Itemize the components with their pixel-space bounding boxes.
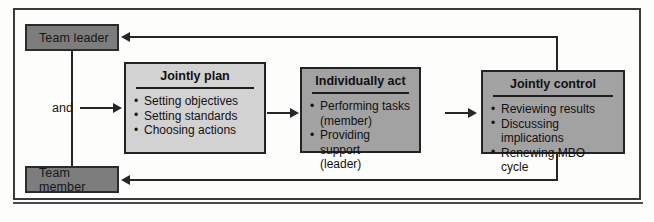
node-team-member[interactable]: Team member [25, 166, 119, 193]
node-jointly-plan[interactable]: Jointly plan Setting objectives Setting … [124, 62, 266, 154]
list-item: Setting standards [134, 109, 256, 124]
node-individually-act[interactable]: Individually act Performing tasks (membe… [300, 67, 421, 153]
connector-control-to-member-horizontal [129, 179, 558, 181]
list-item: Discussing implications [491, 117, 615, 146]
figure-bottom-rule [13, 202, 643, 204]
connector-and-label: and [52, 101, 73, 115]
node-jointly-control-title: Jointly control [491, 77, 615, 92]
arrow-control-to-member-head [121, 175, 130, 185]
figure-canvas: Team leader Team member and Jointly plan… [0, 0, 654, 222]
node-team-member-label: Team member [39, 166, 117, 194]
list-item: Renewing MBO cycle [491, 146, 615, 175]
list-item: Setting objectives [134, 94, 256, 109]
connector-act-to-control-line [445, 112, 470, 114]
arrow-plan-to-act-head [290, 108, 299, 118]
list-item-continuation: (leader) [310, 157, 411, 172]
node-team-leader[interactable]: Team leader [25, 24, 119, 51]
node-individually-act-list: Performing tasks (member) Providing supp… [310, 99, 411, 172]
node-jointly-plan-divider [136, 87, 254, 89]
connector-plan-to-act-line [267, 112, 292, 114]
list-item: Providing support [310, 128, 411, 157]
list-item: Choosing actions [134, 123, 256, 138]
node-jointly-control[interactable]: Jointly control Reviewing results Discus… [481, 70, 625, 154]
list-item: Performing tasks [310, 99, 411, 114]
node-individually-act-divider [312, 92, 409, 94]
connector-control-to-leader-horizontal [129, 36, 558, 38]
node-jointly-plan-list: Setting objectives Setting standards Cho… [134, 94, 256, 138]
node-team-leader-label: Team leader [39, 31, 109, 45]
node-jointly-plan-title: Jointly plan [134, 69, 256, 84]
list-item-continuation: (member) [310, 114, 411, 129]
arrow-act-to-control-head [468, 108, 477, 118]
list-item: Reviewing results [491, 102, 615, 117]
arrow-and-to-plan-head [113, 103, 122, 113]
arrow-control-to-leader-head [121, 32, 130, 42]
node-individually-act-title: Individually act [310, 74, 411, 89]
connector-and-to-plan-line [80, 107, 114, 109]
node-jointly-control-list: Reviewing results Discussing implication… [491, 102, 615, 175]
node-jointly-control-divider [493, 95, 613, 97]
